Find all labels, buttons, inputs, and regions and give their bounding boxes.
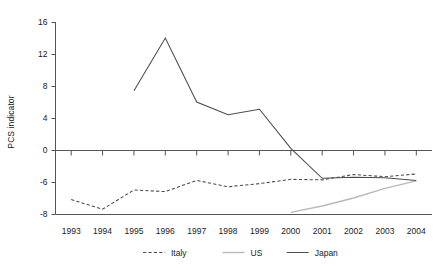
y-tick-label: -6 [40,177,48,187]
x-tick-label: 2003 [375,226,394,236]
y-tick-label: 8 [43,81,48,91]
series-layer [71,38,416,212]
y-tick-label: 4 [43,113,48,123]
x-tick-label: 1995 [124,226,143,236]
y-tick-label: -8 [40,209,48,219]
legend-label-us: US [251,248,263,258]
chart-canvas: PCS indicator 1612840-6-8 19931994199519… [0,0,446,272]
y-tick-label: 12 [38,49,48,59]
x-tick-label: 1996 [156,226,175,236]
x-tick-label: 1993 [62,226,81,236]
x-tick-label: 1997 [187,226,206,236]
y-tick-label: 16 [38,17,48,27]
y-axis-ticks: 1612840-6-8 [38,17,55,219]
series-line-us [291,181,417,212]
legend-label-italy: Italy [171,248,187,258]
x-tick-label: 1994 [93,226,112,236]
y-axis-title: PCS indicator [6,95,16,148]
x-tick-label: 2000 [281,226,300,236]
legend-label-japan: Japan [315,248,338,258]
y-axis-title-group: PCS indicator [6,95,16,148]
x-tick-label: 2004 [407,226,426,236]
x-tick-label: 1999 [250,226,269,236]
series-line-japan [134,38,416,180]
x-tick-label: 2001 [313,226,332,236]
y-tick-label: 0 [43,145,48,155]
x-tick-label: 2002 [344,226,363,236]
pcs-indicator-chart: PCS indicator 1612840-6-8 19931994199519… [0,0,446,272]
series-line-italy [71,174,416,209]
x-tick-label: 1998 [219,226,238,236]
chart-legend: ItalyUSJapan [143,248,338,258]
